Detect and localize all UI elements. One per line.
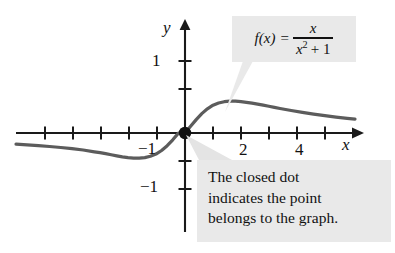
y-tick-label-neg1: −1 bbox=[140, 178, 158, 195]
y-axis-label: y bbox=[163, 19, 171, 36]
graph-figure: −1 2 4 1 −1 x y f(x) = x x2 + 1 The clos… bbox=[0, 0, 395, 253]
formula-denominator-base: x bbox=[296, 41, 303, 57]
y-axis-arrowhead bbox=[180, 19, 191, 30]
y-tick-label-1: 1 bbox=[152, 52, 161, 69]
formula-callout-tail bbox=[225, 61, 253, 112]
x-axis-label: x bbox=[342, 136, 350, 153]
formula-numerator: x bbox=[305, 21, 322, 38]
note-callout-line-3: belongs to the graph. bbox=[208, 208, 382, 229]
x-tick-label-neg1: −1 bbox=[138, 140, 156, 157]
note-callout-line-2: indicates the point bbox=[208, 188, 382, 209]
formula-fraction: x x2 + 1 bbox=[293, 21, 334, 58]
note-callout: The closed dot indicates the point belon… bbox=[197, 160, 391, 242]
formula-function-name: f(x) bbox=[255, 30, 276, 47]
formula-expression: f(x) = x x2 + 1 bbox=[255, 21, 334, 58]
x-tick-label-2: 2 bbox=[239, 141, 248, 158]
formula-denominator-exponent: 2 bbox=[303, 39, 308, 50]
formula-denominator: x2 + 1 bbox=[293, 39, 334, 58]
x-tick-label-4: 4 bbox=[295, 141, 304, 158]
x-axis-arrowhead bbox=[352, 128, 364, 139]
formula-equals-sign: = bbox=[280, 30, 288, 47]
note-callout-tail bbox=[186, 135, 232, 160]
note-callout-line-1: The closed dot bbox=[208, 167, 382, 188]
formula-callout: f(x) = x x2 + 1 bbox=[232, 16, 356, 62]
formula-denominator-rest: + 1 bbox=[311, 41, 331, 57]
